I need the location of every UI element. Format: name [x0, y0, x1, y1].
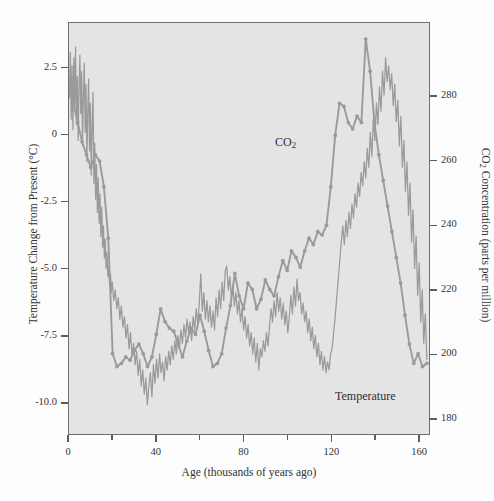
plot-svg [69, 23, 429, 434]
x-axis-minor-tick [287, 435, 289, 440]
series-point [290, 249, 294, 253]
y-axis-right-tick-label: 180 [441, 412, 457, 423]
series-point [167, 326, 171, 330]
series-point [150, 355, 154, 359]
series-point [237, 294, 241, 298]
y-axis-right-tick [430, 418, 437, 420]
series-point [303, 249, 307, 253]
series-point [381, 178, 385, 182]
series-point [215, 361, 219, 365]
series-point [285, 268, 289, 272]
series-point [346, 121, 350, 125]
series-point [342, 105, 346, 109]
plot-area: CO2 Temperature [68, 22, 430, 435]
series-point [333, 133, 337, 137]
series-point [146, 365, 150, 369]
series-point [211, 365, 215, 369]
series-label-temperature: Temperature [335, 389, 395, 404]
series-point [185, 339, 189, 343]
series-point [111, 352, 115, 356]
series-point [368, 69, 372, 73]
y-axis-left-tick [61, 134, 68, 136]
series-point [421, 365, 425, 369]
series-point [359, 121, 363, 125]
y-axis-right-tick [430, 160, 437, 162]
y-axis-right-tick-label: 220 [441, 283, 457, 294]
x-axis-tick-label: 160 [389, 446, 449, 457]
series-point [403, 313, 407, 317]
y-axis-right-tick-label: 200 [441, 347, 457, 358]
series-point [416, 352, 420, 356]
x-axis-tick-label: 80 [214, 446, 274, 457]
x-axis-tick [155, 435, 157, 442]
series-point [124, 355, 128, 359]
series-point [224, 326, 228, 330]
series-point [202, 329, 206, 333]
x-axis-minor-tick [374, 435, 376, 440]
x-axis-title: Age (thousands of years ago) [68, 466, 430, 478]
y-axis-right-title: CO2 Concentration (parts per million) [478, 85, 492, 385]
series-point [159, 307, 163, 311]
series-point [229, 304, 233, 308]
series-point [102, 185, 106, 189]
y-axis-left-tick [61, 335, 68, 337]
series-point [364, 37, 368, 41]
x-axis-tick-label: 120 [301, 446, 361, 457]
series-point [399, 281, 403, 285]
series-point [207, 349, 211, 353]
y-axis-right-tick [430, 354, 437, 356]
series-point [325, 223, 329, 227]
y-axis-left-tick-label: 0 [52, 128, 57, 139]
y-axis-right-tick-label: 240 [441, 218, 457, 229]
series-point [128, 358, 132, 362]
series-point [115, 365, 119, 369]
y-axis-right-tick-label: 260 [441, 154, 457, 165]
series-point [172, 329, 176, 333]
x-axis-tick-label: 40 [126, 446, 186, 457]
series-point [220, 352, 224, 356]
series-point [355, 114, 359, 118]
y-axis-left-tick [61, 268, 68, 270]
y-axis-left-tick-label: -5.0 [40, 262, 57, 273]
series-point [163, 320, 167, 324]
series-point [390, 230, 394, 234]
series-label-co2: CO2 [275, 135, 296, 150]
series-point [233, 272, 237, 276]
series-point [106, 236, 110, 240]
series-point [294, 256, 298, 260]
y-axis-right-tick [430, 289, 437, 291]
series-point [263, 278, 267, 282]
y-axis-left-tick-label: -10.0 [35, 396, 57, 407]
series-point [298, 265, 302, 269]
series-point [250, 288, 254, 292]
series-point [412, 361, 416, 365]
series-point [194, 333, 198, 337]
series-point [154, 333, 158, 337]
series-point [425, 361, 429, 365]
series-point [98, 159, 102, 163]
series-point [338, 101, 342, 105]
series-point [255, 307, 259, 311]
series-point [320, 233, 324, 237]
series-point [272, 294, 276, 298]
x-axis-tick [331, 435, 333, 442]
x-axis-tick [67, 435, 69, 442]
series-point [141, 352, 145, 356]
series-point [259, 297, 263, 301]
y-axis-left-tick [61, 201, 68, 203]
series-point [281, 259, 285, 263]
x-axis-tick-label: 0 [38, 446, 98, 457]
series-point [181, 355, 185, 359]
y-axis-left-tick [61, 67, 68, 69]
series-point [137, 342, 141, 346]
series-point [268, 288, 272, 292]
series-point [277, 275, 281, 279]
y-axis-right-tick-label: 280 [441, 89, 457, 100]
y-axis-left-tick-label: 2.5 [44, 61, 57, 72]
y-axis-right-tick [430, 95, 437, 97]
series-point [394, 256, 398, 260]
series-point [329, 185, 333, 189]
series-line-co [73, 39, 426, 367]
x-axis-minor-tick [111, 435, 113, 440]
series-point [316, 230, 320, 234]
